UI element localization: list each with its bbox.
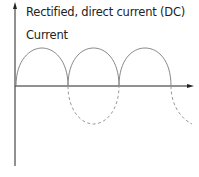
inverted-wave-dashed	[68, 86, 192, 124]
x-axis-arrow-icon	[187, 84, 194, 88]
dc-waveform-diagram	[0, 0, 199, 177]
x-axis	[15, 84, 194, 88]
rectified-wave	[16, 48, 171, 86]
y-axis-arrow-icon	[13, 2, 17, 9]
